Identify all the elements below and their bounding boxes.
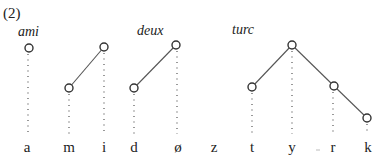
segment-label: d	[130, 139, 138, 155]
tone-node-circle-icon	[172, 41, 180, 49]
tone-node-circle-icon	[65, 84, 73, 92]
segment-label: i	[102, 139, 106, 155]
tone-association-lines	[69, 45, 367, 118]
word-labels: amideuxturc	[18, 22, 255, 39]
tone-nodes	[25, 41, 371, 122]
association-line	[334, 86, 367, 118]
tone-node-circle-icon	[288, 41, 296, 49]
dotted-association-lines	[28, 51, 367, 134]
segment-label: m	[63, 139, 75, 155]
word-label: ami	[18, 24, 39, 39]
segment-label: r	[331, 139, 336, 155]
segment-labels: amidøztyrk	[24, 139, 373, 155]
segment-label: y	[288, 139, 296, 155]
segment-label: z	[211, 139, 218, 155]
word-label: turc	[232, 22, 255, 37]
tone-node-circle-icon	[363, 114, 371, 122]
tone-node-circle-icon	[330, 82, 338, 90]
word-label: deux	[137, 23, 164, 38]
segment-label: ø	[174, 139, 182, 155]
tone-node-circle-icon	[100, 43, 108, 51]
example-number: (2)	[3, 5, 21, 22]
tone-node-circle-icon	[25, 44, 33, 52]
association-line	[252, 45, 292, 87]
association-line	[292, 45, 334, 86]
autosegmental-diagram: (2) amideuxturc amidøztyrk	[0, 0, 378, 160]
tone-node-circle-icon	[248, 83, 256, 91]
association-line	[69, 47, 104, 88]
association-line	[134, 45, 176, 88]
segment-label: k	[364, 139, 372, 155]
tone-node-circle-icon	[130, 84, 138, 92]
segment-label: t	[250, 139, 255, 155]
segment-label: a	[24, 139, 31, 155]
